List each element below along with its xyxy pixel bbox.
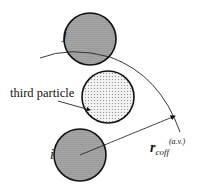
label-i: i — [50, 147, 54, 162]
third-particle-circle — [82, 71, 134, 123]
label-radius-sub: coff — [155, 147, 170, 157]
diagram-canvas: j i third particle rcoff(a.v.) — [0, 0, 198, 190]
label-j: j — [61, 27, 67, 42]
label-radius-sup: (a.v.) — [169, 137, 186, 146]
particle-j-circle — [64, 13, 116, 65]
label-radius: rcoff(a.v.) — [150, 137, 186, 157]
label-third-particle: third particle — [10, 86, 75, 100]
diagram-svg: j i third particle rcoff(a.v.) — [0, 0, 198, 190]
